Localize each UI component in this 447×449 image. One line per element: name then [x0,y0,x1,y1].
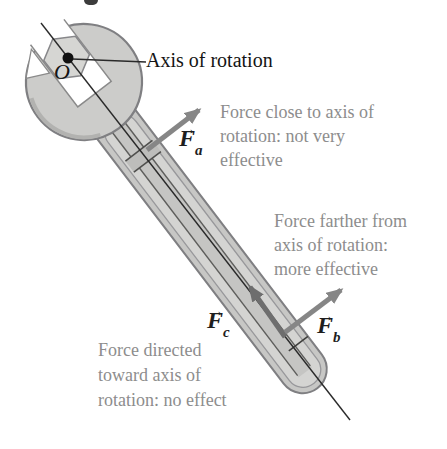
caption-line: effective [220,148,374,172]
force-c-label: →Fc [207,307,230,342]
caption-line: axis of rotation: [274,233,407,257]
caption-line: more effective [274,257,407,281]
caption-line: Force close to axis of [220,100,374,124]
axis-of-rotation-label: Axis of rotation [146,49,273,71]
torque-wrench-figure: O Axis of rotation →Fa →Fb →Fc Force clo… [0,0,447,449]
force-b-caption: Force farther from axis of rotation: mor… [274,209,407,281]
vector-arrow-icon: → [181,116,195,142]
force-b-subscript: b [333,329,341,345]
caption-line: rotation: not very [220,124,374,148]
force-a-label: →Fa [179,125,203,160]
caption-line: rotation: no effect [98,388,227,413]
force-a-subscript: a [195,142,203,158]
vector-arrow-icon: → [209,298,223,324]
vector-arrow-icon: → [319,303,333,329]
force-b-label: →Fb [317,312,341,347]
caption-line: toward axis of [98,363,227,388]
origin-point-label: O [54,61,70,83]
caption-line: Force directed [98,338,227,363]
force-a-caption: Force close to axis of rotation: not ver… [220,100,374,172]
force-c-caption: Force directed toward axis of rotation: … [98,338,227,413]
caption-line: Force farther from [274,209,407,233]
